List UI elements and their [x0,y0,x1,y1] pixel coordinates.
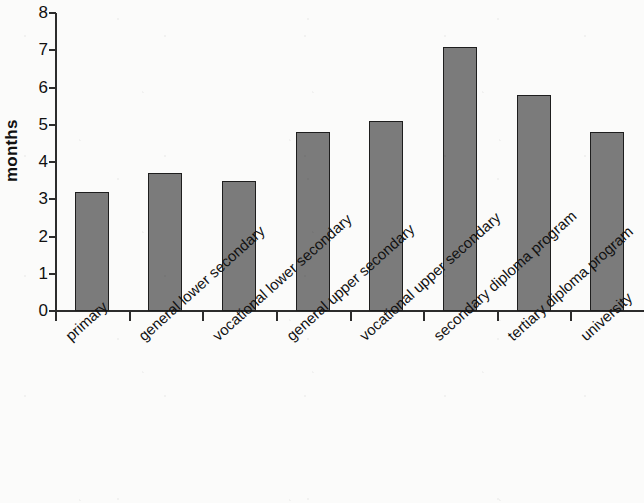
y-tick-label: 0 [28,302,48,319]
y-tick-label: 1 [28,265,48,282]
y-tick-mark [49,236,56,238]
x-tick-mark [55,312,57,321]
y-tick-label: 5 [28,116,48,133]
x-tick-mark [276,312,278,321]
x-tick-mark [497,312,499,321]
x-tick-mark [129,312,131,321]
chart-figure: months 012345678 primarygeneral lower se… [0,0,644,503]
y-tick-mark [49,49,56,51]
y-tick-mark [49,124,56,126]
x-tick-mark [570,312,572,321]
bar [369,121,403,311]
bar [148,173,182,311]
y-tick-mark [49,273,56,275]
y-axis-title: months [2,122,22,182]
bar [517,95,551,311]
x-tick-mark [350,312,352,321]
x-tick-mark [202,312,204,321]
y-tick-mark [49,87,56,89]
y-tick-label: 8 [28,4,48,21]
y-tick-label: 6 [28,79,48,96]
x-tick-mark [423,312,425,321]
bar [590,132,624,311]
bar [296,132,330,311]
y-tick-mark [49,12,56,14]
y-tick-mark [49,161,56,163]
y-tick-label: 7 [28,41,48,58]
y-axis-tick-labels: 012345678 [26,0,48,503]
y-tick-label: 4 [28,153,48,170]
bar [443,47,477,311]
y-tick-mark [49,198,56,200]
y-tick-label: 3 [28,190,48,207]
y-tick-label: 2 [28,228,48,245]
bar [75,192,109,311]
